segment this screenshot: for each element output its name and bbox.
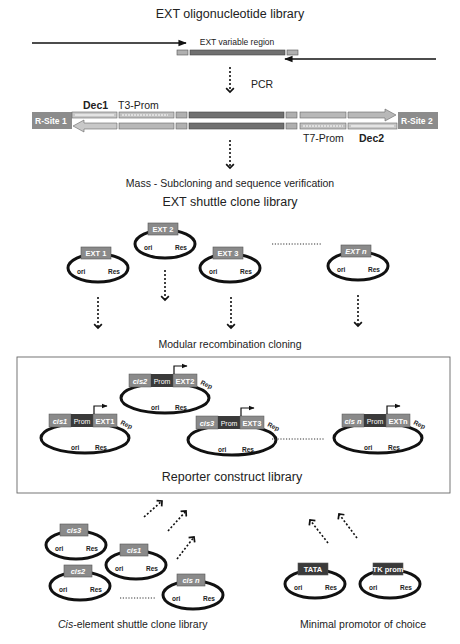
reporter-constructs: cis1PromEXT1ReporiRescis2PromEXT2ReporiR…	[41, 366, 427, 455]
res-label: Res	[175, 244, 187, 251]
pcr-label: PCR	[251, 78, 274, 90]
ori-label: ori	[55, 545, 64, 552]
shuttle-library-title: EXT shuttle clone library	[162, 195, 298, 209]
rsite2-label: R-Site 2	[401, 116, 433, 126]
insert-label: TATA	[304, 565, 323, 574]
transcription-start-arrow	[387, 406, 400, 414]
ext-label: EXTn	[388, 417, 408, 426]
up-arrow	[168, 511, 186, 531]
prom-label: Prom	[154, 378, 171, 385]
ori-label: ori	[151, 404, 160, 411]
dec1-label: Dec1	[83, 99, 108, 111]
ori-label: ori	[144, 244, 153, 251]
reporter-library-title: Reporter construct library	[162, 470, 303, 484]
t3-prom-label: T3-Prom	[118, 99, 159, 111]
ori-label: ori	[369, 584, 378, 591]
ext-shuttle-clone: EXT 1oriRes	[68, 247, 128, 282]
ext-label: EXT1	[96, 417, 115, 426]
up-arrow	[144, 501, 162, 517]
res-label: Res	[108, 268, 120, 275]
modular-cloning-label: Modular recombination cloning	[159, 338, 302, 350]
res-label: Res	[400, 584, 412, 591]
ext-to-recombination-arrows	[98, 270, 358, 328]
cis-label: cis2	[133, 377, 148, 386]
insert-label: cis1	[127, 546, 142, 555]
ext-shuttle-clone: EXT 2oriRes	[135, 223, 195, 258]
ext-shuttle-clone: EXT noriRes	[328, 245, 388, 280]
primer-site-right	[287, 50, 298, 55]
prom-label: Prom	[74, 418, 91, 425]
cis-library-label: Cis-element shuttle clone library	[58, 618, 208, 630]
cis-shuttle-clones: cis3oriRescis1oriRescis2oriRescis noriRe…	[46, 524, 223, 609]
rsite1-label: R-Site 1	[35, 116, 67, 126]
insert-label: EXT n	[345, 247, 367, 256]
transcription-start-arrow	[174, 366, 187, 374]
ext-library-workflow-diagram: EXT oligonucleotide library EXT variable…	[0, 0, 460, 644]
ori-label: ori	[364, 444, 373, 451]
res-label: Res	[242, 446, 254, 453]
up-arrow	[177, 537, 194, 559]
cis-label: cis n	[344, 417, 362, 426]
insert-label: EXT 3	[218, 249, 239, 258]
plasmid-ring	[41, 423, 129, 453]
cis-label: cis3	[200, 419, 215, 428]
cis-shuttle-clone: cis1oriRes	[106, 544, 166, 579]
res-label: Res	[388, 444, 400, 451]
plasmid-ring	[121, 383, 209, 413]
ori-label: ori	[294, 584, 303, 591]
minimal-promoter-clone: TK promoriRes	[360, 563, 420, 598]
cis-shuttle-clone: cis3oriRes	[46, 524, 106, 559]
minimal-promoter-clones: TATAoriResTK promoriRes	[285, 563, 420, 598]
reporter-construct: cis3PromEXT3ReporiRes	[188, 408, 281, 455]
ori-label: ori	[337, 266, 346, 273]
res-label: Res	[203, 595, 215, 602]
reporter-construct: cis2PromEXT2ReporiRes	[121, 366, 214, 413]
subcloning-label: Mass - Subcloning and sequence verificat…	[126, 177, 335, 189]
reporter-construct: cis nPromEXTnReporiRes	[334, 406, 427, 453]
insert-label: EXT 1	[86, 249, 107, 258]
ori-label: ori	[209, 268, 218, 275]
insert-label: EXT 2	[153, 225, 174, 234]
res-label: Res	[146, 565, 158, 572]
up-arrow	[339, 514, 357, 538]
plasmid-ring	[188, 425, 276, 455]
minimal-promoter-clone: TATAoriRes	[285, 563, 345, 598]
prom-label: Prom	[367, 418, 384, 425]
t7-prom-label: T7-Prom	[303, 132, 344, 144]
insert-label: cis2	[71, 567, 86, 576]
ext-label: EXT3	[243, 419, 262, 428]
insert-label: cis3	[67, 526, 82, 535]
ext-shuttle-clones: EXT 1oriResEXT 2oriResEXT 3oriResEXT nor…	[68, 223, 388, 282]
cis-library-rest: -element shuttle clone library	[73, 618, 208, 630]
cis-shuttle-clone: cis2oriRes	[50, 565, 110, 600]
res-label: Res	[95, 444, 107, 451]
primer-site-left	[177, 50, 188, 55]
ori-label: ori	[77, 268, 86, 275]
res-label: Res	[325, 584, 337, 591]
ext-label: EXT2	[176, 377, 195, 386]
upward-arrows	[144, 501, 357, 559]
res-label: Res	[90, 586, 102, 593]
cis-italic: Cis	[58, 618, 74, 630]
insert-label: TK prom	[373, 565, 404, 574]
res-label: Res	[175, 404, 187, 411]
cis-shuttle-clone: cis noriRes	[163, 574, 223, 609]
transcription-start-arrow	[241, 408, 254, 416]
ori-label: ori	[115, 565, 124, 572]
oligo-library-title: EXT oligonucleotide library	[156, 7, 305, 21]
reporter-construct: cis1PromEXT1ReporiRes	[41, 406, 134, 453]
cis-label: cis1	[53, 417, 68, 426]
res-label: Res	[86, 545, 98, 552]
insert-label: cis n	[182, 576, 200, 585]
ori-label: ori	[71, 444, 80, 451]
res-label: Res	[368, 266, 380, 273]
minimal-promoter-label: Minimal promotor of choice	[300, 618, 426, 630]
prom-label: Prom	[221, 420, 238, 427]
up-arrow	[310, 520, 328, 543]
ori-label: ori	[59, 586, 68, 593]
transcription-start-arrow	[94, 406, 107, 414]
pcr-construct: R-Site 1 R-Site 2	[32, 109, 438, 132]
ori-label: ori	[218, 446, 227, 453]
variable-region-bar	[190, 50, 285, 55]
res-label: Res	[240, 268, 252, 275]
